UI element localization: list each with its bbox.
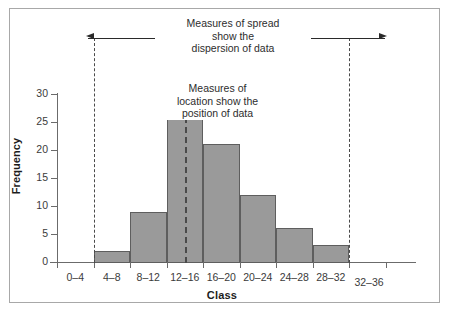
annotation-spread: Measures of spread show the dispersion o…	[155, 17, 311, 55]
annotation-location-line-3: position of data	[155, 107, 280, 120]
y-tick-label-5: 5	[18, 228, 48, 239]
annotation-spread-line-2: show the	[158, 30, 308, 43]
y-tick-15	[51, 178, 57, 179]
bar-16-20	[203, 144, 240, 263]
y-axis-line	[57, 93, 58, 263]
y-tick-label-30: 30	[18, 88, 48, 99]
bar-8-12	[130, 212, 167, 263]
y-tick-label-0: 0	[18, 256, 48, 267]
histogram-figure: 0 5 10 15 20 25 30	[0, 0, 450, 319]
arrow-head-left-icon	[86, 33, 94, 39]
y-tick-label-25: 25	[18, 116, 48, 127]
y-tick-30	[51, 94, 57, 95]
y-tick-20	[51, 150, 57, 151]
y-tick-label-15-wrap: 15	[0, 172, 48, 184]
y-tick-label-0-wrap: 0	[0, 256, 48, 268]
y-tick-25	[51, 122, 57, 123]
plot-area: 0 5 10 15 20 25 30	[0, 0, 450, 319]
bar-24-28	[276, 228, 313, 263]
bar-20-24	[240, 195, 277, 263]
y-tick-5	[51, 234, 57, 235]
y-tick-10	[51, 206, 57, 207]
y-tick-label-10: 10	[18, 200, 48, 211]
x-tick-28	[313, 262, 314, 268]
annotation-spread-line-1: Measures of spread	[158, 17, 308, 30]
x-tick-24	[276, 262, 277, 268]
y-tick-label-15: 15	[18, 172, 48, 183]
x-tick-label-32-36: 32–36	[344, 277, 394, 288]
x-tick-12	[167, 262, 168, 268]
annotation-location-line-2: location show the	[155, 95, 280, 108]
reference-line-right-spread-bound	[349, 38, 350, 263]
y-tick-label-20-wrap: 20	[0, 144, 48, 156]
x-tick-20	[240, 262, 241, 268]
y-tick-label-30-wrap: 30	[0, 88, 48, 100]
bar-4-8	[94, 251, 131, 263]
annotation-location: Measures of location show the position o…	[152, 82, 283, 120]
reference-line-left-spread-bound	[94, 38, 95, 263]
arrow-head-right-icon	[379, 33, 387, 39]
annotation-location-line-1: Measures of	[155, 82, 280, 95]
y-axis-title: Frequency	[10, 124, 22, 208]
y-tick-label-20: 20	[18, 144, 48, 155]
x-tick-0	[57, 262, 58, 268]
y-tick-label-25-wrap: 25	[0, 116, 48, 128]
annotation-spread-line-3: dispersion of data	[158, 42, 308, 55]
x-axis-title: Class	[57, 289, 387, 301]
y-tick-label-5-wrap: 5	[0, 228, 48, 240]
reference-line-location	[185, 117, 187, 263]
y-tick-label-10-wrap: 10	[0, 200, 48, 212]
x-tick-8	[130, 262, 131, 268]
bar-28-32	[313, 245, 350, 263]
x-tick-16	[203, 262, 204, 268]
x-tick-36	[386, 262, 387, 268]
